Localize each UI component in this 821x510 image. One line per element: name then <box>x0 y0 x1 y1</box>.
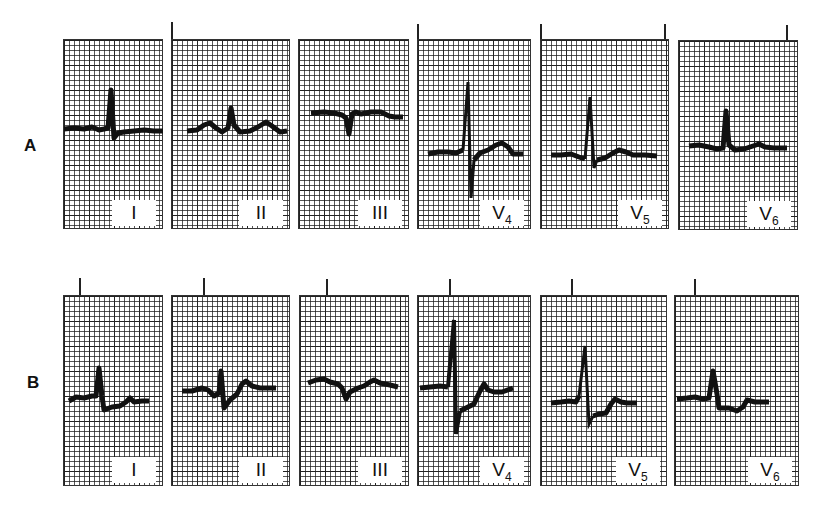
timing-marker <box>417 24 419 40</box>
lead-label: V5 <box>616 457 660 483</box>
lead-label: V5 <box>618 200 662 226</box>
row-label-b: B <box>27 373 39 393</box>
ecg-panel-b-lead-i: I <box>63 295 163 486</box>
timing-marker <box>171 22 173 40</box>
timing-marker <box>79 278 81 295</box>
ecg-panel-b-lead-v4: V4 <box>417 295 531 486</box>
lead-label: I <box>112 457 156 483</box>
timing-marker <box>540 24 542 40</box>
lead-label: V6 <box>747 201 791 227</box>
ecg-panel-b-lead-v5: V5 <box>540 295 667 486</box>
timing-marker <box>664 24 666 40</box>
ecg-panel-a-lead-v5: V5 <box>540 39 669 229</box>
ecg-panel-a-lead-v6: V6 <box>678 40 798 230</box>
lead-label: III <box>358 200 402 226</box>
timing-marker <box>203 278 205 295</box>
ecg-panel-a-lead-i: I <box>63 39 163 229</box>
lead-label: I <box>112 200 156 226</box>
timing-marker <box>694 279 696 295</box>
ecg-panel-b-lead-ii: II <box>171 295 290 486</box>
timing-marker <box>449 279 451 295</box>
lead-label: II <box>239 200 283 226</box>
row-label-a: A <box>24 136 36 156</box>
lead-label: V4 <box>480 457 524 483</box>
timing-marker <box>786 25 788 41</box>
ecg-panel-a-lead-ii: II <box>171 39 290 229</box>
timing-marker <box>571 279 573 295</box>
lead-label: II <box>239 457 283 483</box>
ecg-panel-a-lead-v4: V4 <box>417 39 531 229</box>
ecg-panel-b-lead-v6: V6 <box>674 295 799 486</box>
ecg-panel-b-lead-iii: III <box>299 295 409 486</box>
lead-label: V4 <box>480 200 524 226</box>
ecg-panel-a-lead-iii: III <box>298 39 409 229</box>
timing-marker <box>326 279 328 295</box>
lead-label: V6 <box>748 457 792 483</box>
lead-label: III <box>358 457 402 483</box>
